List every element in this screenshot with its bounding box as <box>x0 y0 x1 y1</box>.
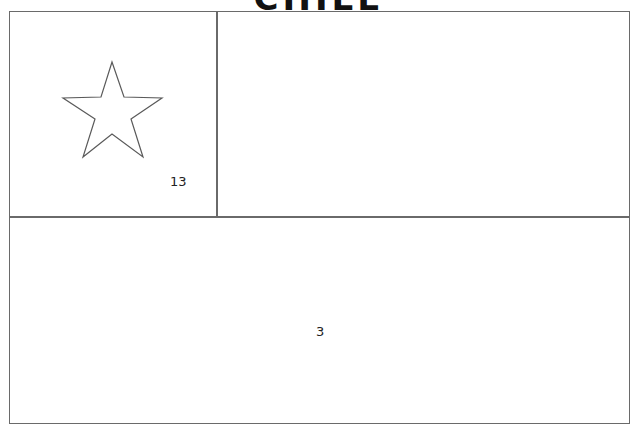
bottom-stripe-number-label: 3 <box>316 324 324 339</box>
canton-number-label: 13 <box>170 174 187 189</box>
star-outline-icon <box>0 0 638 438</box>
